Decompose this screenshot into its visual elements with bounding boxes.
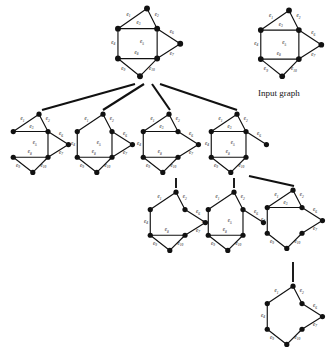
- edge-label-e6: e6: [311, 29, 315, 36]
- edge-label-e7: e7: [59, 149, 63, 156]
- edge-label-e9: e9: [270, 334, 274, 341]
- graph-vertex-b: [284, 342, 289, 347]
- graph-vertex-t: [166, 112, 171, 117]
- graph-vertex-r: [320, 218, 325, 223]
- graph-g3: e1e2e3e4e6e7e9e10: [262, 188, 324, 250]
- graph-input: e1e2e3e4e5e6e7e8e9e10: [255, 8, 323, 78]
- edge-label-e6: e6: [59, 130, 63, 137]
- edge-label-e9: e9: [264, 65, 268, 72]
- edge-label-e5: e5: [228, 217, 232, 224]
- graph-vertex-ul: [265, 205, 270, 210]
- edge-label-e7: e7: [313, 321, 317, 328]
- edge-label-e3: e3: [279, 21, 283, 28]
- graph-vertex-ll: [258, 56, 264, 62]
- graph-vertex-ll: [209, 155, 214, 160]
- graph-edge-e1: [150, 192, 176, 209]
- graph-vertex-ur: [175, 129, 180, 134]
- graph-vertex-lr: [299, 327, 304, 332]
- graph-vertex-t: [231, 190, 236, 195]
- edge-label-e2: e2: [176, 115, 180, 122]
- graph-vertex-r: [318, 42, 324, 48]
- graph-vertex-ul: [148, 207, 153, 212]
- graph-vertex-r: [130, 142, 135, 147]
- graph-edge-e1: [77, 114, 103, 131]
- tree-connector-k1: [42, 84, 135, 110]
- edge-label-e5: e5: [97, 139, 101, 146]
- input-graph-caption: Input graph: [258, 88, 300, 98]
- edge-label-e9: e9: [16, 162, 20, 169]
- graph-vertex-ll: [115, 56, 121, 62]
- graph-c1: e1e2e3e5e6e7e8e9e10: [8, 112, 70, 174]
- graph-vertex-b: [137, 73, 143, 79]
- graph-c2: e1e2e4e5e6e7e8e9e10: [72, 112, 134, 174]
- edge-label-e7: e7: [313, 225, 317, 232]
- edge-label-e8: e8: [28, 148, 32, 155]
- graph-vertex-ll: [75, 155, 80, 160]
- edge-label-e7: e7: [170, 50, 174, 57]
- edge-label-e10: e10: [149, 65, 155, 72]
- graph-vertex-ll: [265, 327, 270, 332]
- graph-vertex-t: [286, 8, 292, 14]
- graph-edge-e1: [13, 114, 39, 131]
- edge-label-e3: e3: [137, 19, 141, 26]
- tree-connector-k3: [152, 84, 170, 110]
- graph-edge-e1: [211, 114, 237, 131]
- edge-label-e2: e2: [297, 12, 301, 19]
- graph-vertex-ll: [148, 233, 153, 238]
- graph-vertex-lr: [154, 56, 160, 62]
- graph-vertex-lr: [299, 231, 304, 236]
- edge-label-e10: e10: [40, 162, 46, 169]
- graph-vertex-ll: [11, 155, 16, 160]
- edge-label-e10: e10: [238, 162, 244, 169]
- graph-edge-e6: [299, 30, 321, 45]
- edge-label-e8: e8: [277, 50, 281, 57]
- edge-label-e10: e10: [294, 334, 300, 341]
- edge-label-e7: e7: [189, 149, 193, 156]
- edge-label-e4: e4: [111, 39, 115, 46]
- graph-vertex-b: [279, 73, 285, 79]
- graph-vertex-ur: [299, 301, 304, 306]
- graph-vertex-ul: [206, 207, 211, 212]
- edge-label-e10: e10: [170, 162, 176, 169]
- graph-vertex-r: [264, 142, 269, 147]
- edge-label-e6: e6: [257, 130, 261, 137]
- graph-vertex-t: [36, 112, 41, 117]
- edge-label-e10: e10: [294, 238, 300, 245]
- edge-label-e6: e6: [313, 206, 317, 213]
- edge-label-e6: e6: [196, 208, 200, 215]
- edge-label-e3: e3: [160, 123, 164, 130]
- graph-vertex-t: [100, 112, 105, 117]
- edge-label-e1: e1: [275, 287, 279, 294]
- graph-vertex-b: [30, 170, 35, 175]
- graph-vertex-ur: [240, 207, 245, 212]
- edge-label-e2: e2: [300, 191, 304, 198]
- edge-label-e10: e10: [291, 65, 297, 72]
- graph-root: e1e2e3e4e5e6e7e8e9e10: [112, 6, 182, 78]
- graph-c3: e1e2e3e4e6e7e8e9e10: [138, 112, 200, 174]
- graph-vertex-ur: [45, 129, 50, 134]
- graph-edge-e1: [118, 9, 147, 29]
- graph-edge-e1: [208, 192, 234, 209]
- graph-vertex-ul: [258, 27, 264, 33]
- edge-label-e1: e1: [21, 115, 25, 122]
- edge-label-e8: e8: [158, 148, 162, 155]
- graph-vertex-ll: [265, 231, 270, 236]
- edge-label-e9: e9: [153, 240, 157, 247]
- edge-label-e5: e5: [231, 139, 235, 146]
- graph-vertex-ur: [296, 27, 302, 33]
- graph-edge-e7: [157, 44, 180, 59]
- edge-label-e2: e2: [110, 115, 114, 122]
- edge-label-e1: e1: [216, 193, 220, 200]
- edge-label-e4: e4: [261, 312, 265, 319]
- edge-label-e4: e4: [71, 140, 75, 147]
- edge-label-e6: e6: [123, 130, 127, 137]
- edge-label-e7: e7: [196, 227, 200, 234]
- edge-label-e1: e1: [151, 115, 155, 122]
- graph-vertex-ul: [11, 129, 16, 134]
- edge-label-e1: e1: [126, 11, 130, 18]
- graph-vertex-lr: [243, 155, 248, 160]
- graph-vertex-b: [167, 248, 172, 253]
- edge-label-e1: e1: [219, 115, 223, 122]
- graph-vertex-ul: [209, 129, 214, 134]
- edge-label-e2: e2: [183, 193, 187, 200]
